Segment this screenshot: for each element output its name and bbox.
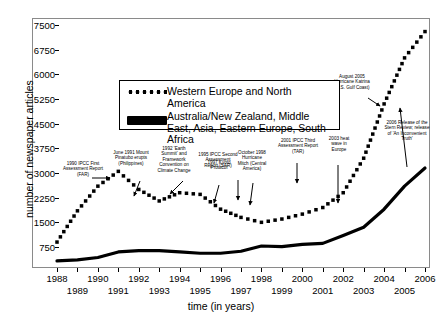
legend-label-rest: Australia/New Zealand, Middle East, Asia… <box>167 111 332 146</box>
annotation-pinatubo: June 1991 Mount Pinatubo erupts (Philipp… <box>112 150 150 166</box>
leader-katrina <box>368 98 380 106</box>
annotation-far: 1990 IPCC First Assessment Report (FAR) <box>60 161 106 177</box>
legend-entry-rest: Australia/New Zealand, Middle East, Asia… <box>127 111 332 146</box>
legend-entry-west: Western Europe and North America <box>127 86 332 109</box>
legend-swatch-dotted <box>127 90 167 99</box>
annotation-mitch: October 1998 Hurricane Mitch (Central Am… <box>236 150 268 172</box>
legend-label-west: Western Europe and North America <box>167 86 332 109</box>
leader-kyoto <box>214 185 219 203</box>
annotation-earth-summit: 1992 'Earth Summit' and Framework Conven… <box>154 146 194 173</box>
annotation-kyoto: 1997 Kyoto Protocol <box>205 160 233 171</box>
leader-earth-summit <box>170 181 183 194</box>
legend: Western Europe and North America Austral… <box>119 80 340 130</box>
annotation-stern: 2006 Release of the Stern Review; releas… <box>384 120 430 142</box>
chart-root: number of newspaper articles 75015002250… <box>0 0 442 324</box>
leader-pinatubo <box>134 181 140 196</box>
legend-swatch-solid <box>127 116 167 125</box>
leader-mitch <box>250 183 253 205</box>
